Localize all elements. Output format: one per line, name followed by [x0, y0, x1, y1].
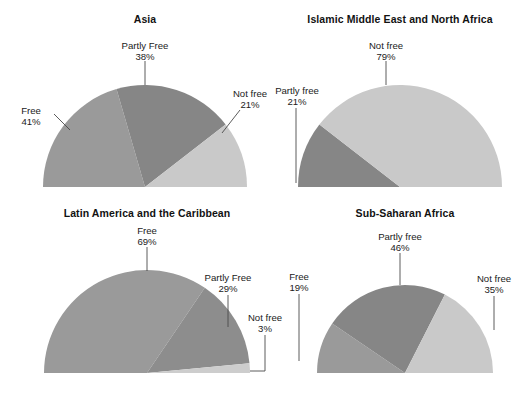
label-ssa-partly-free-pct: 46% [364, 242, 436, 253]
label-latam-not-free: Not free 3% [238, 312, 292, 335]
panel-title-latin-america: Latin America and the Caribbean [42, 207, 252, 219]
figure-four-half-pie-charts: Asia Islamic Middle East and North Afric… [0, 0, 532, 393]
label-asia-partly-free-name: Partly Free [122, 40, 169, 51]
label-asia-partly-free: Partly Free 38% [105, 40, 185, 63]
label-asia-free: Free 41% [8, 105, 54, 128]
label-imena-partly-free-name: Partly free [275, 85, 319, 96]
label-asia-partly-free-pct: 38% [105, 51, 185, 62]
pie-imena [298, 85, 502, 187]
label-asia-free-pct: 41% [8, 116, 54, 127]
label-ssa-free-pct: 19% [276, 282, 322, 293]
panel-title-asia: Asia [85, 13, 205, 25]
label-asia-free-name: Free [21, 105, 41, 116]
label-latam-free: Free 69% [117, 225, 177, 248]
label-latam-free-name: Free [137, 225, 157, 236]
panel-title-imena: Islamic Middle East and North Africa [290, 13, 510, 25]
label-ssa-partly-free: Partly free 46% [364, 231, 436, 254]
label-ssa-not-free-name: Not free [477, 273, 511, 284]
label-imena-not-free-pct: 79% [356, 51, 416, 62]
label-latam-partly-free: Partly Free 29% [194, 272, 262, 295]
label-ssa-free: Free 19% [276, 271, 322, 294]
label-imena-not-free: Not free 79% [356, 40, 416, 63]
leader-latam-not-free [250, 335, 265, 371]
label-imena-partly-free-pct: 21% [266, 96, 328, 107]
label-latam-partly-free-name: Partly Free [205, 272, 252, 283]
panel-title-sub-saharan-africa: Sub-Saharan Africa [315, 207, 495, 219]
leader-asia-not-free [222, 110, 240, 133]
label-latam-free-pct: 69% [117, 236, 177, 247]
label-latam-not-free-name: Not free [248, 312, 282, 323]
label-ssa-not-free: Not free 35% [466, 273, 522, 296]
label-ssa-free-name: Free [289, 271, 309, 282]
label-ssa-not-free-pct: 35% [466, 284, 522, 295]
label-imena-partly-free: Partly free 21% [266, 85, 328, 108]
pie-asia [43, 85, 247, 187]
label-imena-not-free-name: Not free [369, 40, 403, 51]
pie-sub-saharan-africa [317, 285, 493, 373]
label-latam-not-free-pct: 3% [238, 323, 292, 334]
label-latam-partly-free-pct: 29% [194, 283, 262, 294]
label-asia-not-free-name: Not free [233, 88, 267, 99]
label-ssa-partly-free-name: Partly free [378, 231, 422, 242]
